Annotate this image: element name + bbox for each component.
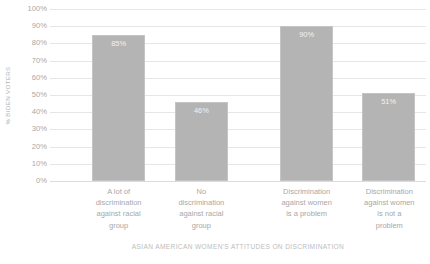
x-axis-category-label: Nodiscriminationagainst racialgroup: [148, 186, 255, 231]
bar: 51%: [362, 93, 415, 181]
y-axis-tick-label: 90%: [32, 22, 47, 30]
y-axis-tick-labels: 100%90%80%70%60%50%40%30%20%10%0%: [14, 9, 50, 181]
category-label-line: Discrimination: [334, 186, 430, 197]
bar-chart: % BIDEN VOTERS 100%90%80%70%60%50%40%30%…: [0, 0, 430, 264]
bar-value-label: 90%: [281, 31, 332, 38]
bar-value-label: 51%: [363, 98, 414, 105]
bars-layer: 85%46%90%51%: [50, 9, 426, 181]
y-axis-tick-label: 60%: [32, 74, 47, 82]
y-axis-tick-label: 70%: [32, 57, 47, 65]
bar-value-label: 46%: [176, 107, 227, 114]
x-axis-category-labels: A lot ofdiscriminationagainst racialgrou…: [50, 186, 426, 238]
y-axis-tick-label: 30%: [32, 126, 47, 134]
category-label-line: discrimination: [148, 197, 255, 208]
bar-value-label: 85%: [93, 40, 144, 47]
category-label-line: No: [148, 186, 255, 197]
axis-baseline: [50, 181, 426, 182]
category-label-line: is not a: [334, 208, 430, 219]
y-axis-tick-label: 0%: [36, 177, 47, 185]
x-axis-category-label: Discriminationagainst womenis not aprobl…: [334, 186, 430, 231]
category-label-line: group: [148, 220, 255, 231]
category-label-line: against women: [334, 197, 430, 208]
bar: 46%: [175, 102, 228, 181]
bar: 90%: [280, 26, 333, 181]
y-axis-tick-label: 10%: [32, 160, 47, 168]
y-axis-tick-label: 20%: [32, 143, 47, 151]
bar: 85%: [92, 35, 145, 181]
y-axis-tick-label: 40%: [32, 108, 47, 116]
x-axis-title: ASIAN AMERICAN WOMEN'S ATTITUDES ON DISC…: [50, 243, 426, 250]
y-axis-title: % BIDEN VOTERS: [0, 0, 14, 190]
y-axis-tick-label: 80%: [32, 40, 47, 48]
category-label-line: problem: [334, 220, 430, 231]
y-axis-tick-label: 50%: [32, 91, 47, 99]
plot-area: 85%46%90%51%: [50, 9, 426, 181]
category-label-line: against racial: [148, 208, 255, 219]
y-axis-tick-label: 100%: [28, 5, 47, 13]
y-axis-title-label: % BIDEN VOTERS: [4, 66, 11, 124]
